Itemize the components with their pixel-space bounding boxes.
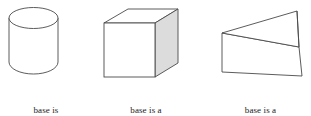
solids-figure: base is a circle base is a rectangle bas… — [0, 0, 311, 116]
caption-cylinder: base is a circle — [0, 82, 92, 116]
cube-shape — [104, 9, 178, 77]
caption-triangular-prism-line1: base is a — [210, 105, 311, 116]
cube-front-face — [104, 23, 155, 77]
triangular-prism-shape — [222, 11, 302, 76]
caption-triangular-prism: base is a triangle — [210, 82, 311, 116]
cylinder-top-ellipse — [9, 8, 58, 29]
cylinder-shape — [9, 8, 58, 75]
caption-cube: base is a rectangle — [98, 82, 194, 116]
caption-cube-line1: base is a — [98, 105, 194, 116]
caption-cylinder-line1: base is — [0, 105, 92, 116]
